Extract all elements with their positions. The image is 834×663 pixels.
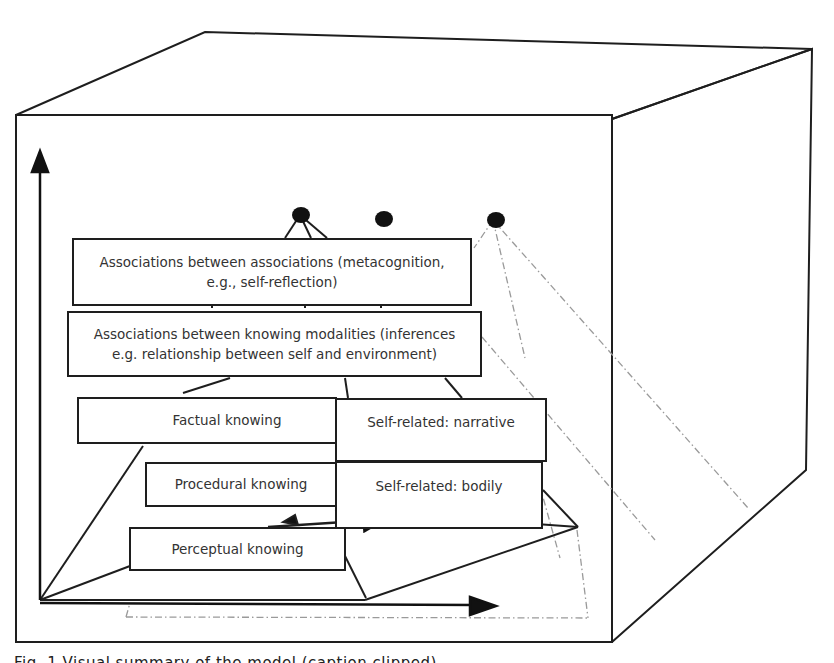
level-procedural-label: Procedural knowing xyxy=(175,474,308,494)
level-metacognition-line2: e.g., self-reflection) xyxy=(99,272,444,292)
level-inferences-line2: e.g. relationship between self and envir… xyxy=(94,344,456,364)
level-perceptual-label: Perceptual knowing xyxy=(171,539,303,559)
knowledge-cube-diagram: Associations between associations (metac… xyxy=(0,0,834,663)
horizontal-axis xyxy=(40,603,475,605)
level-inferences-line1: Associations between knowing modalities … xyxy=(94,324,456,344)
level-metacognition-box: Associations between associations (metac… xyxy=(72,238,472,306)
dots xyxy=(292,207,505,228)
level-perceptual-box: Perceptual knowing xyxy=(129,527,346,571)
level-self-bodily-label: Self-related: bodily xyxy=(376,476,503,496)
level-self-narrative-label: Self-related: narrative xyxy=(367,412,514,432)
level-factual-box: Factual knowing xyxy=(77,397,337,444)
level-procedural-box: Procedural knowing xyxy=(145,462,337,507)
level-inferences-box: Associations between knowing modalities … xyxy=(67,311,482,377)
node-dot-3 xyxy=(487,212,505,228)
figure-caption: Fig. 1 Visual summary of the model (capt… xyxy=(14,652,437,663)
level-self-narrative-box: Self-related: narrative xyxy=(335,398,547,462)
node-dot-1 xyxy=(292,207,310,223)
node-dot-2 xyxy=(375,211,393,227)
level-metacognition-line1: Associations between associations (metac… xyxy=(99,252,444,272)
level-self-bodily-box: Self-related: bodily xyxy=(335,461,543,529)
level-factual-label: Factual knowing xyxy=(173,410,282,430)
